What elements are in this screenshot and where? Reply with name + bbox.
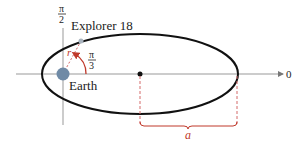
axis-right-label: 0 — [286, 68, 292, 80]
semi-major-label: a — [185, 128, 191, 141]
earth-label: Earth — [69, 78, 98, 93]
angle-label-num: π — [89, 49, 94, 60]
orbit-diagram: π 2 Explorer 18 r π 3 Earth 0 a — [0, 0, 295, 141]
axis-top-label-num: π — [59, 3, 64, 14]
angle-label-den: 3 — [89, 60, 94, 71]
angle-arc — [75, 54, 86, 74]
satellite-label: Explorer 18 — [71, 18, 133, 33]
axis-top-label-den: 2 — [59, 14, 64, 25]
earth-body — [57, 68, 70, 81]
satellite-marker — [79, 39, 84, 44]
radius-label: r — [67, 46, 72, 58]
ellipse-center — [138, 72, 143, 77]
